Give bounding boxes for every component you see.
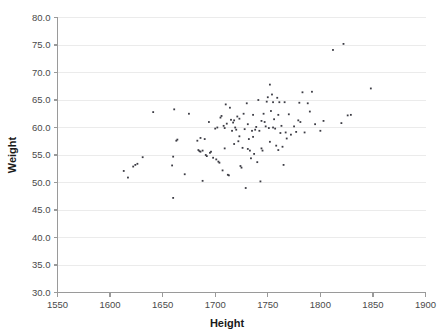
data-point <box>275 145 277 147</box>
data-point <box>204 138 206 140</box>
data-point <box>234 127 236 129</box>
x-tick-label: 1600 <box>100 299 121 310</box>
data-point <box>282 146 284 148</box>
data-point <box>265 126 267 128</box>
data-point <box>247 123 249 125</box>
data-point <box>214 128 216 130</box>
data-point <box>233 143 235 145</box>
data-point <box>200 137 202 139</box>
data-points-group <box>123 43 372 199</box>
x-tick-label: 1800 <box>310 299 331 310</box>
data-point <box>247 148 249 150</box>
data-point <box>278 101 280 103</box>
data-point <box>272 101 274 103</box>
data-point <box>264 121 266 123</box>
data-point <box>239 118 241 120</box>
data-point <box>314 123 316 125</box>
scatter-chart: 30.035.040.045.050.055.060.065.070.075.0… <box>0 0 446 335</box>
data-point <box>252 114 254 116</box>
data-point <box>257 99 259 101</box>
data-point <box>263 113 265 115</box>
data-point <box>246 102 248 104</box>
data-point <box>311 91 313 93</box>
data-point <box>290 134 292 136</box>
plot-svg: 30.035.040.045.050.055.060.065.070.075.0… <box>0 0 446 335</box>
x-axis-title: Height <box>210 317 245 329</box>
y-tick-label: 75.0 <box>32 39 51 50</box>
y-tick-label: 35.0 <box>32 259 51 270</box>
data-point <box>295 131 297 133</box>
data-point <box>188 113 190 115</box>
data-point <box>223 125 225 127</box>
y-tick-label: 80.0 <box>32 12 51 23</box>
data-point <box>271 94 273 96</box>
data-point <box>134 164 136 166</box>
data-point <box>233 119 235 121</box>
data-point <box>273 118 275 120</box>
x-tick-label: 1650 <box>152 299 173 310</box>
data-point <box>293 126 295 128</box>
data-point <box>309 111 311 113</box>
x-tick-label: 1700 <box>205 299 226 310</box>
y-tick-label: 30.0 <box>32 287 51 298</box>
data-point <box>212 157 214 159</box>
data-point <box>260 181 262 183</box>
data-point <box>220 117 222 119</box>
data-point <box>242 147 244 149</box>
data-point <box>347 115 349 117</box>
data-point <box>276 97 278 99</box>
data-point <box>216 127 218 129</box>
data-point <box>250 157 252 159</box>
data-point <box>171 165 173 167</box>
data-point <box>267 96 269 98</box>
data-point <box>277 114 279 116</box>
data-point <box>229 107 231 109</box>
data-point <box>307 102 309 104</box>
data-point <box>283 164 285 166</box>
data-point <box>277 149 279 151</box>
data-point <box>137 163 139 165</box>
y-tick-label: 65.0 <box>32 94 51 105</box>
data-point <box>299 121 301 123</box>
x-tick-label: 1900 <box>415 299 436 310</box>
data-point <box>127 177 129 179</box>
data-point <box>215 159 217 161</box>
data-point <box>266 101 268 103</box>
y-tick-label: 55.0 <box>32 149 51 160</box>
data-point <box>230 119 232 121</box>
gridlines-group <box>58 18 426 266</box>
data-point <box>302 91 304 93</box>
data-point <box>332 49 334 51</box>
data-point <box>269 84 271 86</box>
data-point <box>132 166 134 168</box>
data-point <box>262 150 264 152</box>
data-point <box>224 127 226 129</box>
y-tick-label: 40.0 <box>32 232 51 243</box>
data-point <box>254 129 256 131</box>
data-point <box>210 151 212 153</box>
data-point <box>343 43 345 45</box>
x-tick-label: 1550 <box>47 299 68 310</box>
data-point <box>269 141 271 143</box>
data-point <box>224 148 226 150</box>
data-point <box>319 130 321 132</box>
data-point <box>323 120 325 122</box>
data-point <box>225 104 227 106</box>
data-point <box>286 138 288 140</box>
data-point <box>370 88 372 90</box>
data-point <box>281 125 283 127</box>
data-point <box>202 180 204 182</box>
y-tick-label: 60.0 <box>32 122 51 133</box>
data-point <box>261 120 263 122</box>
data-point <box>200 151 202 153</box>
data-point <box>261 148 263 150</box>
data-point <box>340 122 342 124</box>
data-point <box>243 113 245 115</box>
data-point <box>152 111 154 113</box>
data-point <box>244 128 246 130</box>
data-point <box>251 130 253 132</box>
data-point <box>222 170 224 172</box>
data-point <box>297 119 299 121</box>
data-point <box>268 127 270 129</box>
data-point <box>245 187 247 189</box>
